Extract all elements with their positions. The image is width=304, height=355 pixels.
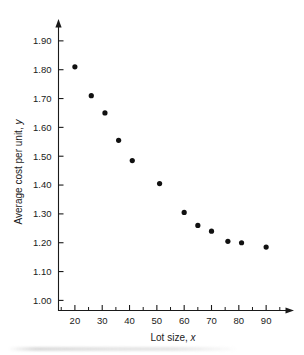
data-point	[72, 64, 77, 69]
data-point	[116, 138, 121, 143]
axis-title-variable: y	[13, 119, 24, 126]
plot-canvas: 1.001.101.201.301.401.501.601.701.801.90…	[0, 0, 304, 355]
y-tick-label-1.20: 1.20	[33, 237, 52, 248]
data-point-series	[72, 64, 268, 249]
x-tick-label-50: 50	[152, 315, 163, 326]
y-tick-label-1.30: 1.30	[33, 208, 52, 219]
scatter-chart-figure: 1.001.101.201.301.401.501.601.701.801.90…	[0, 0, 304, 355]
data-point	[209, 229, 214, 234]
x-tick-label-60: 60	[179, 315, 190, 326]
y-tick-label-1.60: 1.60	[33, 122, 52, 133]
x-tick-label-90: 90	[261, 315, 272, 326]
data-point	[239, 240, 244, 245]
y-axis-title: Average cost per unit, y	[13, 119, 24, 225]
y-axis-ticks	[59, 41, 64, 301]
data-point	[130, 158, 135, 163]
x-tick-label-80: 80	[234, 315, 245, 326]
y-tick-label-1.10: 1.10	[33, 266, 52, 277]
axis-title-text: Average cost per unit,	[13, 125, 24, 225]
y-tick-label-1.70: 1.70	[33, 93, 52, 104]
x-tick-label-70: 70	[206, 315, 217, 326]
x-tick-label-20: 20	[70, 315, 81, 326]
axis-lines	[55, 19, 294, 314]
y-tick-label-1.50: 1.50	[33, 151, 52, 162]
y-tick-label-1.40: 1.40	[33, 179, 52, 190]
x-axis-title: Lot size, x	[150, 332, 196, 343]
y-tick-label-1.80: 1.80	[33, 64, 52, 75]
x-axis-tick-labels: 2030405060708090	[70, 315, 272, 326]
data-point	[225, 239, 230, 244]
x-tick-label-30: 30	[97, 315, 108, 326]
data-point	[102, 110, 107, 115]
x-tick-label-40: 40	[124, 315, 135, 326]
data-point	[157, 181, 162, 186]
axis-title-variable: x	[190, 332, 197, 343]
y-axis-arrowhead	[55, 19, 61, 28]
data-point	[182, 210, 187, 215]
data-point	[264, 244, 269, 249]
data-point	[89, 93, 94, 98]
y-tick-label-1.90: 1.90	[33, 35, 52, 46]
data-point	[195, 223, 200, 228]
x-axis-arrowhead	[286, 307, 295, 313]
y-axis-tick-labels: 1.001.101.201.301.401.501.601.701.801.90	[33, 35, 52, 306]
y-tick-label-1.00: 1.00	[33, 295, 52, 306]
axis-title-text: Lot size,	[150, 332, 190, 343]
scan-artifact	[8, 347, 238, 351]
